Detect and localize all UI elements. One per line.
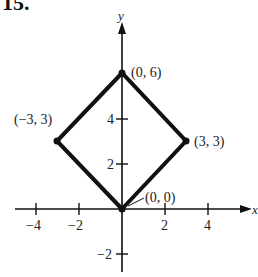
vertex-point <box>54 138 61 145</box>
x-axis: x <box>15 202 258 217</box>
y-tick-label: 4 <box>107 112 114 127</box>
y-axis-arrow-icon <box>118 22 126 34</box>
vertex-point <box>119 206 126 213</box>
vertex-label-top: (0, 6) <box>131 65 162 81</box>
vertex-point <box>119 70 126 77</box>
coordinate-plane: x y −4 −2 2 4 −2 2 4 <box>0 0 258 277</box>
y-axis-label: y <box>116 8 124 23</box>
problem-number: 15. <box>2 0 30 16</box>
vertex-label-left: (−3, 3) <box>14 112 53 128</box>
x-tick-label: 2 <box>161 218 168 233</box>
coordinate-figure: 15. x y −4 −2 2 4 −2 <box>0 0 258 277</box>
x-tick-label: −2 <box>68 218 83 233</box>
x-axis-label: x <box>251 202 258 217</box>
vertex-point <box>183 138 190 145</box>
vertex-label-right: (3, 3) <box>194 134 225 150</box>
vertex-label-origin: (0, 0) <box>145 190 176 206</box>
y-tick-label: 2 <box>107 157 114 172</box>
x-axis-arrow-icon <box>240 205 252 213</box>
y-axis: y <box>116 8 126 272</box>
x-tick-label: 4 <box>204 218 211 233</box>
x-tick-label: −4 <box>26 218 41 233</box>
y-tick-label: −2 <box>97 247 112 262</box>
